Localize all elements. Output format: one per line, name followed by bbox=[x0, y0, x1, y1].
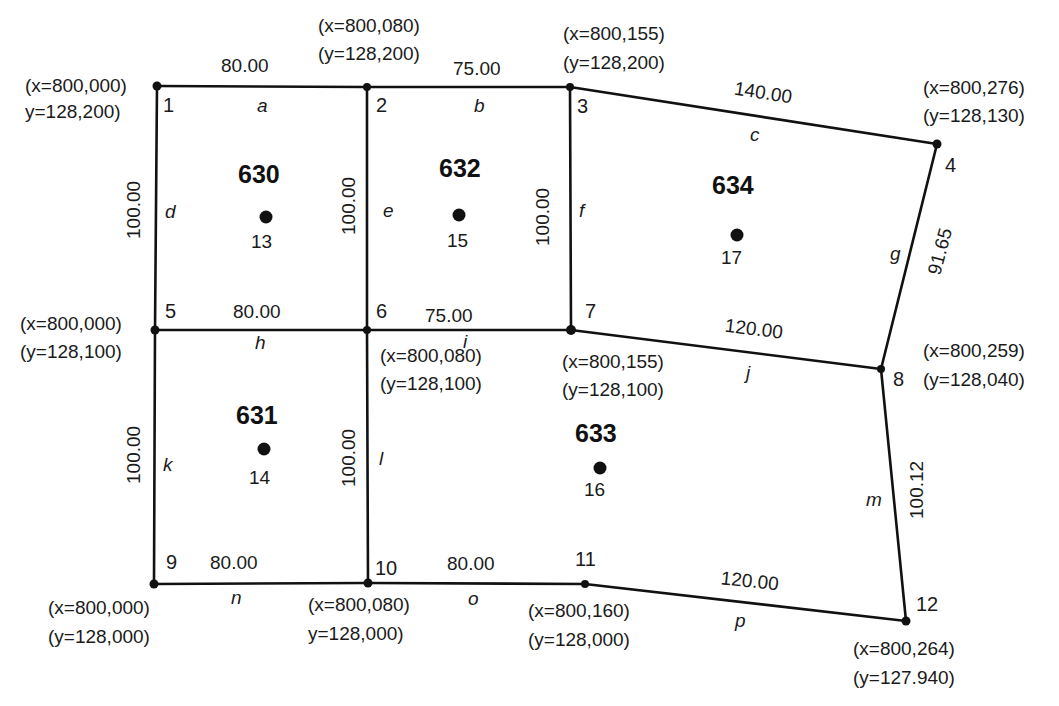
parcel-632-centroid-label: 15 bbox=[447, 230, 468, 251]
parcel-631-centroid-label: 14 bbox=[249, 467, 271, 488]
node-7-marker bbox=[566, 325, 576, 335]
edge-l-length: 100.00 bbox=[338, 429, 359, 487]
node-12-marker bbox=[902, 617, 911, 626]
node-3-coord-y: (y=128,200) bbox=[563, 52, 665, 73]
edge-k-length: 100.00 bbox=[123, 426, 144, 484]
parcel-634-centroid-marker bbox=[731, 229, 744, 242]
node-5-coord-y: (y=128,100) bbox=[20, 341, 122, 362]
edge-g-length: 91.65 bbox=[924, 226, 957, 277]
node-4-marker bbox=[933, 140, 942, 149]
edge-j-length: 120.00 bbox=[724, 315, 784, 343]
node-6-label: 6 bbox=[376, 300, 387, 322]
node-7-label: 7 bbox=[585, 300, 596, 322]
edge-f-length: 100.00 bbox=[532, 188, 553, 246]
edge-e-label: e bbox=[383, 200, 394, 221]
edge-j-label: j bbox=[743, 362, 751, 383]
edge-b-label: b bbox=[474, 95, 485, 116]
node-2-coord-y: (y=128,200) bbox=[318, 43, 420, 64]
edge-n-length: 80.00 bbox=[210, 552, 258, 573]
edge-a bbox=[157, 86, 367, 87]
node-11-marker bbox=[581, 580, 589, 588]
edge-n-label: n bbox=[231, 587, 242, 608]
node-2-coord-x: (x=800,080) bbox=[318, 15, 420, 36]
node-12-coord-y: (y=127.940) bbox=[853, 667, 955, 688]
parcel-633-centroid-label: 16 bbox=[584, 479, 605, 500]
parcel-632-centroid-marker bbox=[453, 209, 466, 222]
edge-m bbox=[881, 369, 906, 621]
edge-k-label: k bbox=[163, 454, 174, 475]
node-4-coord-x: (x=800,276) bbox=[923, 77, 1025, 98]
node-9-marker bbox=[150, 580, 159, 589]
node-5-coord-x: (x=800,000) bbox=[20, 313, 122, 334]
node-8-label: 8 bbox=[893, 368, 904, 390]
node-5-marker bbox=[151, 326, 160, 335]
parcel-632-id: 632 bbox=[439, 154, 481, 182]
node-numbers: 1 2 3 4 5 6 7 8 9 10 11 12 bbox=[163, 94, 956, 615]
node-7-coord-x: (x=800,155) bbox=[562, 351, 664, 372]
edge-i-length: 75.00 bbox=[425, 305, 473, 326]
node-10-marker bbox=[364, 579, 373, 588]
node-7-coord-y: (y=128,100) bbox=[562, 379, 664, 400]
node-10-coord-y: y=128,000) bbox=[308, 623, 404, 644]
edge-c-label: c bbox=[750, 124, 760, 145]
edge-o-length: 80.00 bbox=[447, 553, 495, 574]
node-8-coord-x: (x=800,259) bbox=[923, 340, 1025, 361]
node-8-marker bbox=[877, 365, 885, 373]
edge-h-length: 80.00 bbox=[233, 301, 281, 322]
node-12-coord-x: (x=800,264) bbox=[853, 638, 955, 659]
edge-g-label: g bbox=[890, 243, 901, 264]
edge-a-label: a bbox=[257, 95, 268, 116]
node-11-coord-y: (y=128,000) bbox=[528, 629, 630, 650]
node-3-coord-x: (x=800,155) bbox=[563, 23, 665, 44]
parcel-630-centroid-marker bbox=[260, 211, 273, 224]
parcel-630-id: 630 bbox=[238, 160, 280, 188]
node-1-label: 1 bbox=[163, 94, 174, 116]
edge-d-length: 100.00 bbox=[123, 181, 144, 239]
node-8-coord-y: (y=128,040) bbox=[923, 369, 1025, 390]
node-5-label: 5 bbox=[165, 300, 176, 322]
node-1-marker bbox=[153, 82, 162, 91]
parcel-631-id: 631 bbox=[236, 401, 278, 429]
node-1-coord-y: y=128,200) bbox=[25, 101, 121, 122]
distance-labels: 80.00 75.00 140.00 100.00 100.00 100.00 … bbox=[123, 55, 956, 594]
node-11-coord-x: (x=800,160) bbox=[528, 600, 630, 621]
edge-o-label: o bbox=[468, 588, 479, 609]
node-11-label: 11 bbox=[575, 548, 596, 570]
edge-h-label: h bbox=[255, 332, 266, 353]
node-9-coord-y: (y=128,000) bbox=[48, 626, 150, 647]
node-3-label: 3 bbox=[577, 95, 588, 117]
edge-l bbox=[367, 330, 368, 583]
edge-d-label: d bbox=[165, 201, 177, 222]
parcel-631-centroid-marker bbox=[258, 443, 271, 456]
node-2-marker bbox=[363, 83, 371, 91]
edge-d bbox=[155, 86, 157, 330]
node-10-coord-x: (x=800,080) bbox=[308, 594, 410, 615]
node-9-label: 9 bbox=[166, 551, 177, 573]
node-6-coord-y: (y=128,100) bbox=[380, 373, 482, 394]
parcels: 630 13 632 15 634 17 631 14 633 16 bbox=[236, 154, 754, 500]
edge-a-length: 80.00 bbox=[221, 55, 269, 76]
edge-b-length: 75.00 bbox=[453, 58, 501, 79]
node-6-marker bbox=[363, 326, 371, 334]
node-12-label: 12 bbox=[916, 593, 938, 615]
parcel-diagram: 1 2 3 4 5 6 7 8 9 10 11 12 (x=800,000) y… bbox=[0, 0, 1059, 706]
parcel-633-centroid-marker bbox=[594, 462, 607, 475]
node-9-coord-x: (x=800,000) bbox=[48, 597, 150, 618]
edge-p-length: 120.00 bbox=[720, 567, 780, 594]
parcel-633-id: 633 bbox=[575, 419, 617, 447]
parcel-630-centroid-label: 13 bbox=[251, 231, 272, 252]
edge-n bbox=[154, 583, 368, 584]
parcel-634-centroid-label: 17 bbox=[721, 247, 742, 268]
edge-e-length: 100.00 bbox=[338, 177, 359, 235]
edge-p-label: p bbox=[734, 610, 746, 631]
edge-k bbox=[154, 330, 155, 584]
node-3-marker bbox=[566, 83, 574, 91]
parcel-634-id: 634 bbox=[712, 171, 754, 199]
node-1-coord-x: (x=800,000) bbox=[25, 75, 127, 96]
node-10-label: 10 bbox=[375, 557, 397, 579]
edge-f bbox=[570, 87, 571, 330]
edge-m-label: m bbox=[866, 489, 882, 510]
node-4-coord-y: (y=128,130) bbox=[923, 105, 1025, 126]
edge-o bbox=[368, 583, 585, 584]
edge-c-length: 140.00 bbox=[733, 78, 794, 108]
